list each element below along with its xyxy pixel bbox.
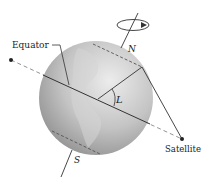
equator-label: Equator: [12, 40, 50, 50]
north-pole-label: N: [127, 44, 137, 54]
rotation-arrowhead-icon: [141, 22, 147, 28]
angle-label: L: [115, 94, 123, 105]
diagram-canvas: L N S Equator Satellite: [0, 0, 214, 184]
satellite-point: [180, 137, 184, 141]
left-point: [9, 58, 13, 62]
south-pole-label: S: [74, 155, 80, 165]
satellite-label: Satellite: [165, 144, 201, 154]
polar-axis-south: [61, 150, 72, 177]
